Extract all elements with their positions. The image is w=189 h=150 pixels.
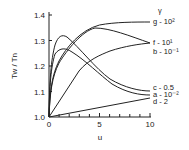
ytick-1.2: 1.2 (34, 62, 46, 71)
series-c (49, 36, 150, 117)
x-ticks (59, 113, 150, 117)
ytick-1.0: 1.0 (34, 113, 46, 122)
y-axis-label: Tw / Tn (10, 53, 19, 79)
series-f (49, 28, 150, 117)
legend-b: b - 10⁻¹ (153, 47, 179, 56)
ytick-1.4: 1.4 (34, 11, 46, 20)
series-a (49, 49, 150, 117)
xtick-0: 0 (47, 120, 52, 129)
legend-title: γ (158, 6, 162, 15)
legend-f: f - 10¹ (153, 38, 173, 47)
legend-g: g - 10² (153, 17, 175, 26)
x-axis-label: u (98, 133, 102, 142)
ytick-1.1: 1.1 (34, 88, 46, 97)
legend-d: d - 2 (153, 97, 168, 106)
xtick-5: 5 (97, 120, 102, 129)
ytick-1.3: 1.3 (34, 37, 46, 46)
chart: 1.4 1.3 1.2 1.1 1.0 0 5 10 u Tw / Tn γ g… (0, 0, 189, 150)
series-b (49, 43, 150, 117)
xtick-10: 10 (146, 120, 155, 129)
